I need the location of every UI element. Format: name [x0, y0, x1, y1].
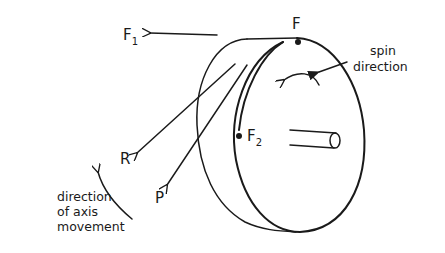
resultant-r-arrow [137, 64, 235, 153]
label-spin-direction: direction [353, 59, 408, 74]
label-f1: F1 [123, 26, 138, 47]
force-f1-arrow [150, 33, 217, 35]
label-p: P [155, 189, 164, 207]
disk-face-edge [239, 42, 283, 130]
label-spin: spin [370, 43, 396, 58]
gyroscope-diagram: F F2 F1 R P spin direction direction of … [0, 0, 445, 253]
point-f2 [236, 133, 242, 139]
axle [290, 130, 340, 148]
label-r: R [120, 150, 130, 168]
label-f2: F2 [247, 127, 262, 148]
label-axis-line1: direction [57, 189, 112, 204]
disk-top-edge [247, 38, 297, 39]
label-axis-line3: movement [57, 219, 125, 234]
label-f: F [292, 15, 301, 33]
label-axis-line2: of axis [57, 204, 98, 219]
spin-rotation-arrow [284, 74, 319, 85]
point-f [295, 39, 301, 45]
